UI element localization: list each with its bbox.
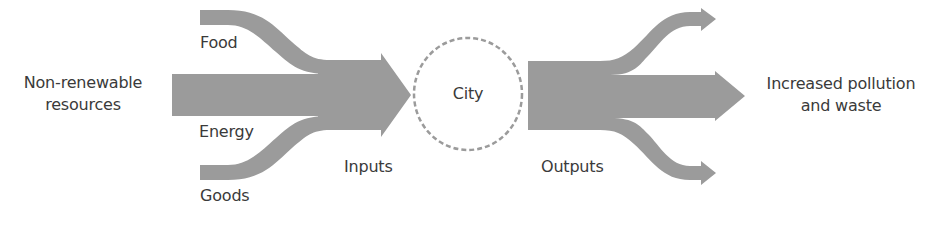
source-label-line2: resources [0,94,166,116]
city-label: City [418,83,518,105]
source-label: Non-renewable resources [0,72,166,116]
result-label: Increased pollution and waste [750,73,932,117]
food-label: Food [200,32,238,54]
result-label-line2: and waste [750,95,932,117]
inputs-label: Inputs [344,156,393,178]
inputs-arrow [318,53,411,137]
outputs-label: Outputs [541,156,604,178]
goods-label: Goods [200,185,249,207]
energy-main-stream [172,74,332,116]
energy-label: Energy [199,121,254,143]
source-label-line1: Non-renewable [0,72,166,94]
result-label-line1: Increased pollution [750,73,932,95]
